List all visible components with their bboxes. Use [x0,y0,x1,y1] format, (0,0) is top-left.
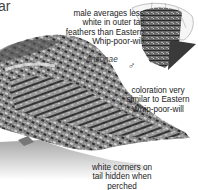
male-symbol-tail: ♂ [128,61,136,71]
male-symbol-bird: ♂ [6,121,14,131]
coloration-note: coloration very similar to Eastern Whip-… [118,86,198,114]
tail-dark-vane [168,40,196,70]
tail-feather-note: male averages less white in outer tail f… [62,9,144,47]
tail-corners-note: white corners on tail hidden when perche… [82,163,162,190]
subspecies-label: arizonae [82,55,122,64]
